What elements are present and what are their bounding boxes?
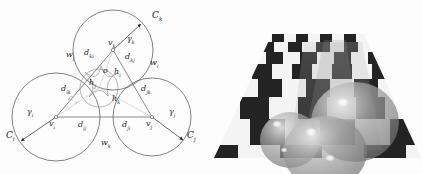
label-circle-o: Co [68, 95, 77, 105]
raytraced-scene [212, 0, 423, 174]
label-d-ji: dji [122, 121, 130, 131]
label-d-ki: dki [84, 49, 94, 59]
highlight-back [337, 98, 349, 107]
label-vertex-k: vk [108, 39, 116, 49]
label-gamma-i: γi [27, 108, 33, 118]
label-d-ik: dik [61, 85, 71, 95]
label-circle-j: Cj [187, 131, 196, 142]
label-h-i: hi [114, 68, 121, 78]
highlight-left-2 [280, 147, 287, 152]
label-circle-k: Ck [152, 11, 162, 22]
label-circle-i: Ci [6, 131, 15, 142]
label-gamma-j: γj [169, 108, 175, 118]
label-vertex-i: vi [49, 120, 55, 130]
label-d-jk: djk [141, 85, 151, 95]
highlight-left [272, 120, 282, 128]
label-h-k: hk [112, 95, 120, 105]
render-svg [212, 0, 423, 174]
label-d-kj: dkj [125, 53, 135, 63]
label-d-ij: dij [78, 121, 86, 131]
label-gamma-k: γk [127, 35, 135, 45]
circle-tangency-diagram: Ck Ci Cj Co vk vi vj γk γi γj dki dkj di… [0, 0, 211, 174]
vertex-point-k [111, 48, 114, 51]
highlight-front-2 [325, 154, 335, 161]
radius-arrow-j [152, 117, 183, 140]
label-w-k: wk [101, 139, 111, 149]
label-center-o: o [103, 67, 108, 75]
figure-root: Ck Ci Cj Co vk vi vj γk γi γj dki dkj di… [0, 0, 423, 174]
label-w-i: wi [150, 59, 158, 69]
label-h-j: hj [89, 79, 96, 89]
label-w-j: wj [66, 51, 74, 61]
label-vertex-j: vj [146, 120, 152, 130]
vertex-point-i [54, 115, 57, 118]
highlight-front [305, 128, 317, 137]
